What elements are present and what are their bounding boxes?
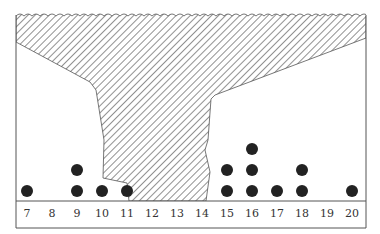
data-dot (71, 185, 83, 197)
hatched-shape (16, 14, 374, 201)
tick-label: 19 (320, 207, 334, 220)
tick-label: 12 (145, 207, 159, 220)
tick-label: 13 (170, 207, 184, 220)
tick-label: 10 (95, 207, 109, 220)
data-dot (246, 164, 258, 176)
data-dot (221, 164, 233, 176)
hatched-region (16, 14, 374, 201)
data-dot (296, 185, 308, 197)
data-dot (221, 185, 233, 197)
tick-label: 14 (195, 207, 209, 220)
data-dot (346, 185, 358, 197)
data-dot (296, 164, 308, 176)
tick-label: 16 (245, 207, 259, 220)
data-dot (271, 185, 283, 197)
dot-plot-diagram: 7891011121314151617181920 (0, 0, 380, 234)
data-dot (21, 185, 33, 197)
tick-label: 7 (24, 207, 31, 220)
tick-label: 17 (270, 207, 284, 220)
data-dot (246, 185, 258, 197)
tick-label: 9 (74, 207, 81, 220)
tick-label: 11 (120, 207, 134, 220)
data-dot (96, 185, 108, 197)
tick-label: 8 (49, 207, 56, 220)
data-dot (71, 164, 83, 176)
tick-label: 20 (345, 207, 359, 220)
axis-tick-labels: 7891011121314151617181920 (24, 207, 360, 220)
data-dot (246, 143, 258, 155)
data-dot (121, 185, 133, 197)
tick-label: 18 (295, 207, 309, 220)
tick-label: 15 (220, 207, 234, 220)
